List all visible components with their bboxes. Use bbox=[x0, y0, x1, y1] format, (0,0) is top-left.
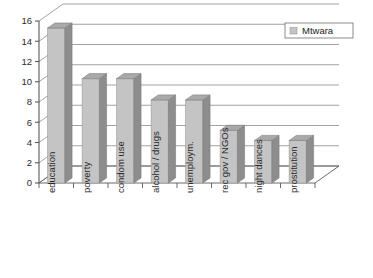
x-axis-label: condom use bbox=[115, 141, 126, 193]
bar-side-face[interactable] bbox=[65, 23, 72, 183]
bar-side-face[interactable] bbox=[272, 135, 279, 183]
bar-side-face[interactable] bbox=[237, 125, 244, 183]
y-tick-label: 4 bbox=[27, 137, 32, 148]
gridline-depth bbox=[39, 4, 63, 21]
legend[interactable]: Mtwara bbox=[285, 23, 353, 38]
y-tick-label: 8 bbox=[27, 96, 32, 107]
bar-side-face[interactable] bbox=[99, 74, 106, 183]
y-tick-label: 12 bbox=[21, 56, 32, 67]
legend-label-mtwara: Mtwara bbox=[302, 25, 334, 36]
bar-side-face[interactable] bbox=[203, 95, 210, 183]
y-tick-label: 6 bbox=[27, 117, 32, 128]
y-tick-label: 2 bbox=[27, 157, 32, 168]
x-axis-label: prostitution bbox=[288, 147, 299, 193]
x-axis-label: poverty bbox=[81, 162, 92, 193]
bars-group bbox=[48, 23, 314, 183]
y-tick-label: 14 bbox=[21, 36, 32, 47]
plot-area: 0246810121416educationpovertycondom usea… bbox=[21, 4, 353, 193]
y-axis-ticks: 0246810121416 bbox=[21, 15, 39, 188]
chart-canvas: 0246810121416educationpovertycondom usea… bbox=[0, 0, 373, 278]
bar-chart: 0246810121416educationpovertycondom usea… bbox=[0, 0, 373, 278]
x-axis-label: night dances bbox=[253, 139, 264, 193]
legend-swatch-mtwara bbox=[290, 28, 297, 35]
x-axis-label: rec gov / NGOs bbox=[219, 127, 230, 193]
x-axis-label: alcohol / drugs bbox=[150, 131, 161, 193]
y-tick-label: 0 bbox=[27, 177, 32, 188]
y-tick-label: 16 bbox=[21, 15, 32, 26]
y-tick-label: 10 bbox=[21, 76, 32, 87]
bar-side-face[interactable] bbox=[168, 95, 175, 183]
x-axis-label: unemploym. bbox=[184, 141, 195, 193]
bar-side-face[interactable] bbox=[306, 135, 313, 183]
x-axis-label: education bbox=[46, 152, 57, 193]
bar-side-face[interactable] bbox=[134, 74, 141, 183]
